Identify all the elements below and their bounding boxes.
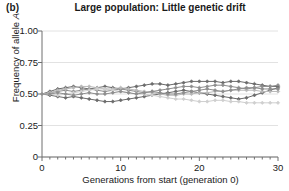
series-marker	[88, 85, 91, 88]
plot-area: 1.000.750.500.2500102030	[0, 0, 289, 191]
series-marker	[103, 92, 106, 95]
figure-panel-b: (b) Large population: Little genetic dri…	[0, 0, 289, 191]
series-marker	[237, 100, 240, 103]
series-marker	[237, 80, 240, 83]
x-tick-label: 30	[266, 163, 289, 173]
series-marker	[229, 80, 232, 83]
series-marker	[119, 90, 122, 93]
series-marker	[229, 89, 232, 92]
series-marker	[80, 96, 83, 99]
series-marker	[95, 99, 98, 102]
series-marker	[221, 95, 224, 98]
series-marker	[198, 89, 201, 92]
series-marker	[206, 100, 209, 103]
series-marker	[174, 86, 177, 89]
series-marker	[190, 85, 193, 88]
series-marker	[135, 85, 138, 88]
series-marker	[206, 80, 209, 83]
series-marker	[64, 92, 67, 95]
series-marker	[166, 83, 169, 86]
series-marker	[206, 87, 209, 90]
series-marker	[119, 99, 122, 102]
series-marker	[174, 97, 177, 100]
y-tick-label: 0	[4, 152, 38, 162]
series-marker	[229, 100, 232, 103]
series-marker	[88, 97, 91, 100]
series-marker	[150, 82, 153, 85]
series-marker	[103, 100, 106, 103]
series-marker	[143, 83, 146, 86]
series-marker	[221, 99, 224, 102]
series-marker	[158, 95, 161, 98]
series-marker	[261, 101, 264, 104]
x-tick-label: 10	[109, 163, 133, 173]
series-marker	[95, 92, 98, 95]
series-marker	[213, 99, 216, 102]
series-marker	[245, 96, 248, 99]
series-marker	[253, 82, 256, 85]
series-marker	[213, 83, 216, 86]
y-tick-label: 0.50	[4, 89, 38, 99]
series-marker	[182, 81, 185, 84]
series-marker	[135, 92, 138, 95]
series-marker	[166, 96, 169, 99]
series-marker	[64, 96, 67, 99]
series-marker	[103, 87, 106, 90]
series-marker	[221, 83, 224, 86]
series-marker	[253, 86, 256, 89]
series-marker	[182, 85, 185, 88]
y-tick-label: 0.75	[4, 58, 38, 68]
x-tick-label: 20	[187, 163, 211, 173]
series-marker	[182, 97, 185, 100]
series-marker	[127, 97, 130, 100]
series-marker	[40, 92, 43, 95]
series-marker	[166, 87, 169, 90]
series-marker	[174, 82, 177, 85]
series-marker	[213, 80, 216, 83]
series-marker	[221, 90, 224, 93]
series-marker	[190, 80, 193, 83]
series-marker	[111, 100, 114, 103]
series-marker	[190, 99, 193, 102]
series-marker	[261, 87, 264, 90]
series-marker	[245, 101, 248, 104]
series-marker	[268, 101, 271, 104]
series-marker	[276, 101, 279, 104]
y-tick-label: 0.25	[4, 121, 38, 131]
series-marker	[198, 100, 201, 103]
y-tick-label: 1.00	[4, 26, 38, 36]
series-marker	[245, 81, 248, 84]
series-marker	[135, 96, 138, 99]
series-marker	[80, 92, 83, 95]
series-marker	[198, 80, 201, 83]
series-marker	[229, 85, 232, 88]
series-marker	[253, 101, 256, 104]
series-marker	[229, 96, 232, 99]
x-tick-label: 0	[30, 163, 54, 173]
series-marker	[158, 82, 161, 85]
series-marker	[190, 90, 193, 93]
